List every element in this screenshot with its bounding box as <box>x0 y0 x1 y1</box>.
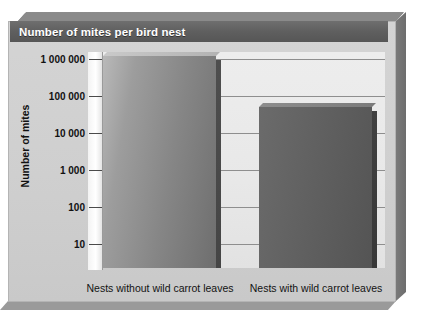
y-axis-tick-label: 10 <box>74 239 85 250</box>
bar1-side-face <box>216 60 221 268</box>
y-axis-tick <box>89 170 102 171</box>
y-axis-tick-label: 100 <box>68 202 85 213</box>
y-axis-tick-label: 10 000 <box>54 128 85 139</box>
bar-nests-with-wild-carrot-leaves <box>259 107 372 268</box>
y-axis-tick-label: 1 000 000 <box>41 54 86 65</box>
y-axis-tick-label: 1 000 <box>60 165 85 176</box>
y-axis-tick-label: 100 000 <box>49 91 85 102</box>
y-axis-tick <box>89 96 102 97</box>
bar2-side-face <box>372 111 377 268</box>
y-axis-tick <box>89 133 102 134</box>
y-axis-tick <box>89 244 102 245</box>
chart-figure: Number of mites per bird nest 1 000 0001… <box>0 0 422 331</box>
y-axis-title: Number of mites <box>19 86 31 206</box>
y-axis-tick <box>89 59 102 60</box>
x-axis-category-label: Nests with wild carrot leaves <box>250 282 382 294</box>
bar1-top-face <box>103 52 220 56</box>
bar2-top-face <box>259 103 376 107</box>
y-axis-tick <box>89 207 102 208</box>
x-axis-category-labels: Nests without wild carrot leavesNests wi… <box>0 282 422 302</box>
x-axis-category-label: Nests without wild carrot leaves <box>86 282 233 294</box>
slab-right-bevel <box>396 12 406 301</box>
bar-nests-without-wild-carrot-leaves <box>103 56 216 268</box>
y-axis-band <box>88 52 103 270</box>
